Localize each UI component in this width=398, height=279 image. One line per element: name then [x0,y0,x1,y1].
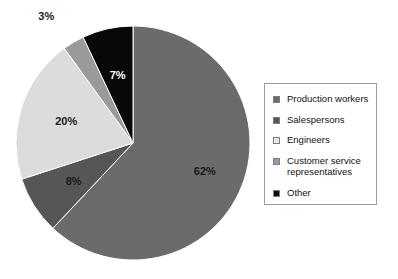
legend-label-production-workers: Production workers [287,93,368,105]
legend-label-customer-service-representatives: Customer service representatives [287,155,361,178]
pie-value-label-production-workers: 62% [194,165,216,177]
legend-item-production-workers[interactable]: Production workers [273,93,370,105]
chart-legend: Production workers Salespersons Engineer… [264,83,377,205]
legend-label-salespersons: Salespersons [287,114,345,126]
legend-label-other: Other [287,187,311,199]
legend-item-other[interactable]: Other [273,187,370,199]
legend-item-salespersons[interactable]: Salespersons [273,114,370,126]
legend-swatch-customer-service-representatives [273,158,280,165]
legend-swatch-production-workers [273,96,280,103]
legend-label-engineers: Engineers [287,134,330,146]
legend-item-customer-service-representatives[interactable]: Customer service representatives [273,155,370,178]
legend-swatch-engineers [273,137,280,144]
pie-value-label-other: 7% [110,69,126,81]
legend-swatch-other [273,190,280,197]
chart-canvas: 62%8%20%3%7% Production workers Salesper… [0,0,398,279]
pie-value-label-customer-service-representatives: 3% [38,10,54,22]
legend-item-engineers[interactable]: Engineers [273,134,370,146]
legend-swatch-salespersons [273,117,280,124]
pie-value-label-salespersons: 8% [66,175,82,187]
pie-value-label-engineers: 20% [55,115,77,127]
pie-slice-group [16,26,250,260]
